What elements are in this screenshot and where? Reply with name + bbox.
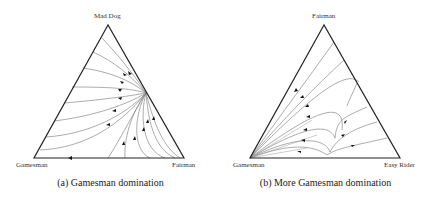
panel-b: Fairman Gamesman Easy Rider [217,0,434,205]
caption-b: (b) More Gamesman domination [217,177,434,188]
ternary-plot-b [217,0,434,205]
ternary-plot-a [0,0,217,205]
panel-a: Mad Dog Gamesman Fairman [0,0,217,205]
caption-a: (a) Gamesman domination [2,177,219,188]
